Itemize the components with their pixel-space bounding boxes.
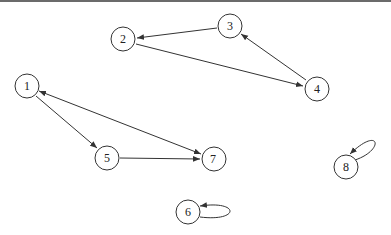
svg-text:3: 3 [227, 19, 233, 33]
node-8[interactable]: 8 [334, 155, 358, 179]
node-2[interactable]: 2 [111, 27, 135, 51]
svg-text:7: 7 [210, 152, 216, 166]
edge-5-to-7 [120, 158, 200, 159]
node-4[interactable]: 4 [305, 77, 329, 101]
node-1[interactable]: 1 [15, 74, 39, 98]
edge-8-self-loop [350, 140, 375, 160]
svg-text:2: 2 [120, 32, 126, 46]
svg-text:4: 4 [314, 82, 320, 96]
edge-6-self-loop [200, 205, 230, 218]
node-6[interactable]: 6 [176, 200, 200, 224]
svg-text:6: 6 [185, 205, 191, 219]
edge-1-7-bidirectional [39, 91, 201, 154]
node-7[interactable]: 7 [202, 147, 226, 171]
edge-2-to-4 [136, 44, 303, 86]
svg-text:8: 8 [343, 160, 349, 174]
svg-text:1: 1 [24, 79, 30, 93]
node-3[interactable]: 3 [218, 14, 242, 38]
svg-text:5: 5 [104, 151, 110, 165]
graph-canvas: 1 2 3 4 5 6 7 8 [0, 0, 391, 235]
node-5[interactable]: 5 [95, 146, 119, 170]
edge-3-to-2 [137, 28, 217, 38]
edge-1-to-5 [36, 96, 97, 148]
